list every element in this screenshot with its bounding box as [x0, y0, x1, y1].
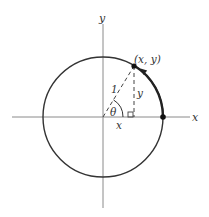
x-axis-label: x [192, 111, 199, 124]
radius-line [103, 66, 134, 117]
vertical-leg-label: y [136, 87, 144, 99]
start-point-dot [160, 114, 166, 120]
point-label: (x, y) [134, 53, 161, 65]
y-axis-label: y [98, 12, 106, 25]
radius-label: 1 [111, 83, 118, 95]
angle-label: θ [110, 106, 117, 118]
horizontal-leg-label: x [116, 119, 122, 131]
right-angle-marker [128, 112, 133, 117]
unit-circle-diagram: y x (x, y) 1 y x θ [0, 0, 209, 217]
